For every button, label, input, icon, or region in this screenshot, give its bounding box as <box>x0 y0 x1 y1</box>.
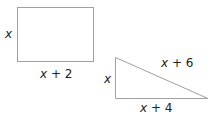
rectangle-height-label: x <box>4 27 13 41</box>
triangle-base-label: x + 4 <box>139 101 172 115</box>
triangle-height-label: x <box>103 72 112 86</box>
rectangle-shape <box>18 8 94 62</box>
diagram: x x + 2 x x + 4 x + 6 <box>0 0 217 115</box>
rectangle-width-label: x + 2 <box>39 67 72 81</box>
triangle-hypotenuse-label: x + 6 <box>160 56 193 70</box>
